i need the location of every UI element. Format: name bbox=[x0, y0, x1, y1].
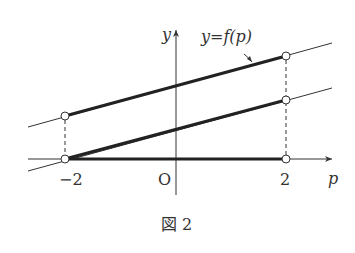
label-pointer-arrow bbox=[244, 54, 252, 62]
figure-caption: 図 2 bbox=[161, 215, 192, 234]
open-circle-right-upper bbox=[282, 52, 290, 60]
tick-label-2: 2 bbox=[280, 170, 290, 189]
function-label: y=f(p) bbox=[200, 27, 252, 46]
open-circle-left-upper bbox=[61, 112, 69, 120]
open-circle-left-axis bbox=[61, 155, 69, 163]
open-circle-right-axis bbox=[282, 155, 290, 163]
p-axis-label: p bbox=[328, 169, 338, 188]
figure-2-diagram: y y=f(p) p −2 O 2 図 2 bbox=[0, 0, 355, 253]
open-circle-right-middle bbox=[282, 96, 290, 104]
y-axis-label: y bbox=[161, 25, 172, 44]
origin-label: O bbox=[158, 170, 171, 189]
tick-label-neg2: −2 bbox=[59, 170, 83, 189]
